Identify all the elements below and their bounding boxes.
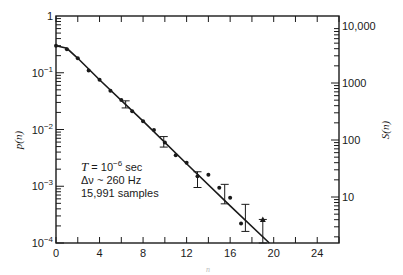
data-point xyxy=(54,44,58,48)
data-point xyxy=(98,78,102,82)
annotation-line-1: T = 10−6 sec xyxy=(81,159,143,174)
data-point xyxy=(141,119,145,123)
fit-line xyxy=(56,46,269,243)
x-tick-label: 12 xyxy=(180,247,192,259)
y-tick-label: 1 xyxy=(47,10,53,22)
x-tick-label: 20 xyxy=(268,247,280,259)
x-tick-label: 0 xyxy=(53,247,59,259)
right-tick-label: 10,000 xyxy=(342,20,376,32)
data-point xyxy=(152,128,156,132)
fit-curve xyxy=(56,46,269,243)
x-tick-label: 24 xyxy=(311,247,323,259)
x-tick-label: 4 xyxy=(96,247,102,259)
right-axis-title: S(n) xyxy=(379,121,392,140)
data-point xyxy=(76,56,80,60)
y-axis-title: p(n) xyxy=(12,131,25,151)
x-tick-label: 8 xyxy=(140,247,146,259)
y-tick-label: 10−3 xyxy=(32,178,54,192)
data-point xyxy=(174,153,178,157)
plot-frame xyxy=(56,16,339,243)
right-tick-label: 1000 xyxy=(342,77,366,89)
x-axis-ticks: 04812162024 xyxy=(53,16,339,259)
axes-box xyxy=(56,16,339,243)
annotation-box: T = 10−6 sec Δν ~ 260 Hz 15,991 samples xyxy=(81,159,159,199)
annotation-line-2: Δν ~ 260 Hz xyxy=(81,174,141,186)
y-tick-label: 10−1 xyxy=(32,65,54,79)
data-point xyxy=(228,196,232,200)
data-point xyxy=(130,109,134,113)
data-point xyxy=(108,89,112,93)
data-point xyxy=(206,173,210,177)
y-tick-label: 10−4 xyxy=(32,235,54,249)
data-point xyxy=(163,141,167,145)
data-point xyxy=(87,68,91,72)
data-point xyxy=(239,222,243,226)
annotation-line-3: 15,991 samples xyxy=(81,187,159,199)
x-tick-label: 16 xyxy=(224,247,236,259)
y-tick-label: 10−2 xyxy=(32,122,54,136)
right-axis-ticks: 10100100010,000 xyxy=(331,20,376,237)
chart-canvas: 04812162024 10−410−310−210−11 1010010001… xyxy=(0,0,403,275)
data-point xyxy=(185,161,189,165)
right-tick-label: 100 xyxy=(342,134,360,146)
data-point xyxy=(119,98,123,102)
right-tick-label: 10 xyxy=(342,191,354,203)
data-point xyxy=(196,174,200,178)
data-point xyxy=(217,186,221,190)
x-axis-title: n xyxy=(206,265,210,274)
data-point xyxy=(65,47,69,51)
